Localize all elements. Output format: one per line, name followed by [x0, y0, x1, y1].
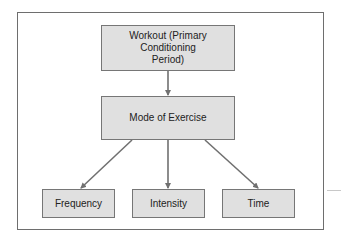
node-intensity: Intensity [132, 189, 205, 218]
node-workout-label: Workout (Primary Conditioning Period) [129, 30, 207, 66]
node-workout-line-1: Workout (Primary [129, 30, 207, 42]
scan-artifact-line [327, 190, 341, 191]
node-workout-line-2: Conditioning [129, 42, 207, 54]
node-time: Time [222, 189, 295, 218]
node-mode-label: Mode of Exercise [129, 112, 206, 124]
node-workout-line-3: Period) [129, 54, 207, 66]
node-mode-of-exercise: Mode of Exercise [101, 96, 235, 140]
node-intensity-label: Intensity [150, 198, 187, 210]
node-frequency-label: Frequency [55, 198, 102, 210]
node-workout: Workout (Primary Conditioning Period) [101, 25, 235, 71]
node-time-label: Time [248, 198, 270, 210]
node-frequency: Frequency [42, 189, 115, 218]
